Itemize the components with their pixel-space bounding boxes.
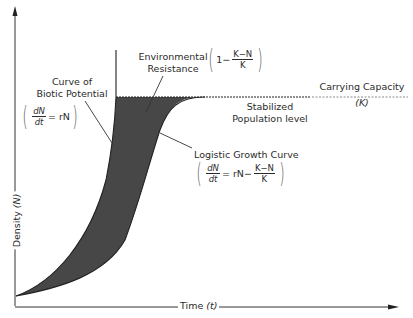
- biotic-title-line1: Curve of: [31, 76, 113, 88]
- biotic-eq-rhs: = rN: [48, 111, 70, 122]
- x-axis-symbol: (t): [206, 300, 217, 311]
- env-eq-denominator: K: [240, 60, 246, 70]
- biotic-potential-title: Curve of Biotic Potential: [31, 76, 113, 100]
- env-eq-prefix: 1−: [216, 54, 230, 65]
- environmental-resistance-title: Environmental Resistance: [133, 51, 213, 75]
- carrying-line1: Carrying Capacity: [313, 81, 411, 93]
- y-axis-label: Density (N): [11, 192, 22, 250]
- y-axis-symbol: (N): [11, 194, 22, 209]
- y-axis-label-text: Density: [11, 211, 22, 247]
- biotic-eq-denominator: dt: [35, 117, 44, 127]
- biotic-equation: ( dN dt = rN ): [20, 103, 80, 129]
- carrying-capacity-title: Carrying Capacity (K): [313, 81, 411, 109]
- env-title-line1: Environmental: [133, 51, 213, 63]
- right-paren: ): [258, 46, 263, 72]
- stabilized-line2: Population level: [225, 113, 315, 125]
- biotic-derivative: dN dt: [32, 106, 46, 127]
- x-axis-label: Time (t): [178, 300, 219, 311]
- logistic-eq-numerator: dN: [206, 163, 220, 174]
- logistic-fraction: K−N K: [254, 163, 275, 184]
- environmental-resistance-equation: ( 1− K−N K ): [206, 46, 265, 72]
- carrying-symbol: (K): [313, 97, 411, 109]
- left-paren: (: [197, 160, 202, 186]
- x-axis-label-text: Time: [180, 300, 203, 311]
- left-paren: (: [209, 46, 214, 72]
- env-eq-numerator: K−N: [232, 49, 253, 60]
- right-paren: ): [72, 103, 77, 129]
- right-paren: ): [279, 160, 284, 186]
- stabilized-line1: Stabilized: [225, 101, 315, 113]
- logistic-equation: ( dN dt = rN− K−N K ): [194, 160, 287, 186]
- logistic-frac-numerator: K−N: [254, 163, 275, 174]
- x-axis-arrow-icon: [388, 305, 399, 310]
- logistic-derivative: dN dt: [206, 163, 220, 184]
- logistic-frac-denominator: K: [262, 174, 268, 184]
- biotic-eq-numerator: dN: [32, 106, 46, 117]
- biotic-leader-line: [85, 101, 112, 143]
- biotic-title-line2: Biotic Potential: [31, 88, 113, 100]
- logistic-eq-denominator: dt: [209, 174, 218, 184]
- y-axis-arrow-icon: [13, 6, 18, 16]
- stabilized-population-label: Stabilized Population level: [225, 101, 315, 125]
- env-fraction: K−N K: [232, 49, 253, 70]
- left-paren: (: [23, 103, 28, 129]
- logistic-eq-mid: = rN−: [222, 168, 252, 179]
- logistic-leader-line: [160, 133, 192, 148]
- env-title-line2: Resistance: [133, 63, 213, 75]
